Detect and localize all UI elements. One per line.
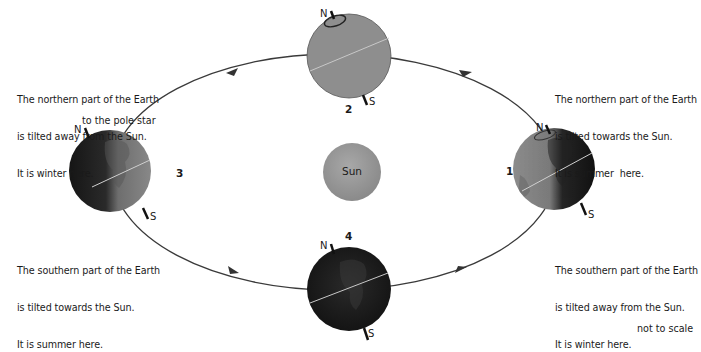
caption-top-right: The northern part of the Earth is tilted… <box>555 69 697 193</box>
north-pole-label-4: N <box>320 240 327 251</box>
position-number-4: 4 <box>345 230 352 242</box>
earth-position-4 <box>307 244 391 340</box>
caption-line: is tilted towards the Sun. <box>555 131 697 143</box>
earth-position-2 <box>307 11 391 105</box>
caption-line: The southern part of the Earth <box>17 265 160 277</box>
caption-line: The northern part of the Earth <box>555 94 697 106</box>
caption-line: The southern part of the Earth <box>555 265 698 277</box>
position-number-2: 2 <box>345 103 352 115</box>
caption-top-left: The northern part of the Earth is tilted… <box>17 69 159 193</box>
caption-line: is tilted towards the Sun. <box>17 302 160 314</box>
caption-line: is tilted away from the Sun. <box>555 302 698 314</box>
caption-line: It is winter here. <box>555 339 698 351</box>
south-pole-label-3: S <box>150 211 156 222</box>
caption-line: It is summer here. <box>17 339 160 351</box>
sun-label: Sun <box>342 165 362 177</box>
position-number-3: 3 <box>176 167 183 179</box>
caption-bottom-right: The southern part of the Earth is tilted… <box>555 240 698 352</box>
south-pole-label-2: S <box>369 96 375 107</box>
north-pole-label-1: N <box>536 122 543 133</box>
caption-line: is tilted away from the Sun. <box>17 131 159 143</box>
caption-line: It is winter here. <box>17 168 159 180</box>
caption-bottom-left: The southern part of the Earth is tilted… <box>17 240 160 352</box>
position-number-1: 1 <box>506 165 513 177</box>
south-pole-label-1: S <box>588 209 594 220</box>
caption-line: It is summer here. <box>555 168 697 180</box>
north-pole-label-2: N <box>320 8 327 19</box>
south-pole-label-4: S <box>368 328 374 339</box>
caption-line: The northern part of the Earth <box>17 94 159 106</box>
scale-note: not to scale <box>637 323 693 334</box>
